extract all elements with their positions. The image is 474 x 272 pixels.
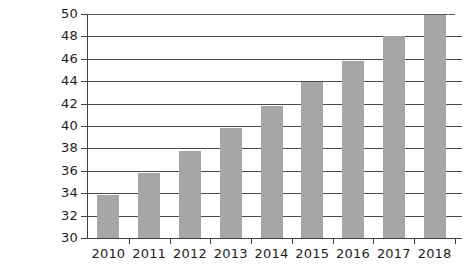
- x-axis-label: 2016: [333, 247, 374, 260]
- y-axis-tick-right: [455, 216, 462, 217]
- y-axis-label: 44: [4, 74, 78, 87]
- x-axis-tick: [292, 238, 293, 244]
- y-axis-tick-right: [455, 171, 462, 172]
- x-axis-label: 2018: [414, 247, 455, 260]
- bar: [424, 15, 446, 238]
- y-axis-tick-right: [455, 104, 462, 105]
- y-axis-tick-right: [455, 126, 462, 127]
- bar: [179, 151, 201, 238]
- y-axis-label: 42: [4, 97, 78, 110]
- y-axis-tick: [81, 216, 87, 217]
- bar: [342, 61, 364, 238]
- x-axis-label: 2010: [88, 247, 129, 260]
- x-axis-tick: [129, 238, 130, 244]
- bar: [138, 173, 160, 238]
- y-axis-tick-right: [455, 36, 462, 37]
- y-axis-label: 48: [4, 29, 78, 42]
- y-axis-tick-right: [455, 81, 462, 82]
- y-axis-tick: [81, 14, 87, 15]
- y-axis-tick: [81, 81, 87, 82]
- x-axis-label: 2017: [373, 247, 414, 260]
- y-axis-label: 50: [4, 7, 78, 20]
- y-axis-tick-right: [455, 238, 462, 239]
- x-axis-tick: [414, 238, 415, 244]
- y-axis-label: 32: [4, 209, 78, 222]
- y-axis-tick: [81, 59, 87, 60]
- y-axis-tick: [81, 104, 87, 105]
- y-axis-tick: [81, 193, 87, 194]
- bar: [261, 106, 283, 238]
- y-axis-tick: [81, 148, 87, 149]
- bar: [220, 128, 242, 238]
- y-axis-labels: 3032343638404244464850: [0, 0, 78, 272]
- bar-chart: 3032343638404244464850 20102011201220132…: [0, 0, 474, 272]
- y-axis-label: 30: [4, 231, 78, 244]
- x-axis-label: 2012: [170, 247, 211, 260]
- y-axis-tick-right: [455, 148, 462, 149]
- x-axis-tick: [210, 238, 211, 244]
- y-axis-label: 38: [4, 141, 78, 154]
- y-axis-line: [87, 14, 88, 239]
- x-axis-label: 2011: [129, 247, 170, 260]
- y-axis-tick: [81, 36, 87, 37]
- x-axis-tick: [251, 238, 252, 244]
- x-axis-label: 2014: [251, 247, 292, 260]
- bars-group: [88, 14, 455, 238]
- x-axis-line: [87, 238, 456, 239]
- y-axis-tick-right: [455, 193, 462, 194]
- y-axis-label: 46: [4, 52, 78, 65]
- plot-area: [88, 14, 455, 238]
- y-axis-tick: [81, 126, 87, 127]
- x-axis-tick: [170, 238, 171, 244]
- bar: [301, 82, 323, 238]
- x-axis-tick: [333, 238, 334, 244]
- y-axis-label: 40: [4, 119, 78, 132]
- bar: [97, 195, 119, 238]
- y-axis-tick: [81, 171, 87, 172]
- y-axis-label: 34: [4, 186, 78, 199]
- y-axis-label: 36: [4, 164, 78, 177]
- x-axis-label: 2015: [292, 247, 333, 260]
- x-axis-label: 2013: [210, 247, 251, 260]
- y-axis-tick-right: [455, 59, 462, 60]
- x-axis-tick: [373, 238, 374, 244]
- x-axis-tick: [455, 238, 456, 244]
- bar: [383, 36, 405, 238]
- y-axis-tick: [81, 238, 87, 239]
